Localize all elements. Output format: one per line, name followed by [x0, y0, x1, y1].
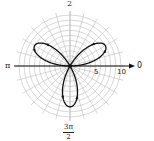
label-pi-over-2: 2: [67, 0, 72, 8]
tick-label-10: 10: [117, 69, 126, 76]
label-zero: 0: [137, 62, 142, 70]
direction-arrow-icon: [33, 49, 36, 53]
axis-arrow-icon: [129, 64, 135, 69]
tick-label-5: 5: [94, 69, 98, 76]
label-pi: π: [5, 62, 10, 70]
label-3pi-over-2: 3π 2: [63, 124, 74, 141]
polar-plot: [0, 0, 154, 141]
label-3pi-over-2-numerator: 3π: [63, 124, 74, 133]
pole-point: [68, 64, 72, 68]
label-3pi-over-2-denominator: 2: [63, 133, 74, 141]
